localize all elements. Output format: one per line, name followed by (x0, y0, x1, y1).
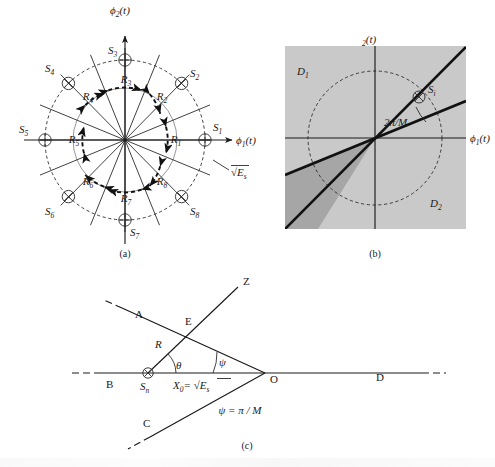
panel-c: A B C D Z E O R θ ψ Sn X0= √Es ψ = π / M… (72, 275, 446, 452)
panel-c-label-b: B (106, 378, 113, 390)
signal-point-s3 (119, 54, 131, 66)
panel-c-label-a: A (135, 308, 143, 320)
panel-a-radius-leader (213, 160, 229, 170)
panel-c-psi-arc (213, 352, 217, 373)
svg-text:S2: S2 (190, 67, 200, 82)
panel-c-distance-label: X0= √Es (172, 379, 209, 394)
panel-c-label-e: E (185, 315, 192, 327)
svg-text:R8: R8 (156, 175, 168, 190)
svg-text:S7: S7 (130, 226, 140, 241)
signal-point-s2 (175, 77, 187, 89)
panel-a-caption: (a) (119, 248, 130, 260)
svg-text:R6: R6 (82, 175, 94, 190)
svg-text:R7: R7 (120, 192, 132, 207)
panel-c-ray-oa-dash (104, 300, 122, 308)
svg-text:S4: S4 (45, 62, 55, 77)
svg-text:S8: S8 (190, 205, 200, 220)
panel-a: S1 S2 S3 S4 S5 S6 S7 S8 R1 R2 R3 R4 R5 R… (19, 4, 256, 260)
panel-c-radius-label: R (154, 338, 162, 350)
signal-point-s5 (39, 134, 51, 146)
panel-c-label-c: C (143, 417, 150, 429)
svg-text:R3: R3 (120, 73, 132, 88)
panel-c-ray-oa (122, 308, 265, 373)
svg-text:S3: S3 (108, 44, 118, 59)
panel-a-radius-label: √Es (231, 166, 247, 181)
panel-c-theta-arc (168, 354, 176, 373)
svg-text:S5: S5 (19, 123, 29, 138)
panel-c-label-z: Z (243, 275, 250, 287)
panel-c-psi-label: ψ (219, 356, 226, 368)
panel-c-label-d: D (376, 371, 384, 383)
page-bottom-artifact (0, 458, 495, 467)
panel-b-x-axis-label: ϕ1(t) (470, 132, 490, 147)
panel-b-y-axis-label: 2(t) (362, 33, 376, 48)
figure-container: S1 S2 S3 S4 S5 S6 S7 S8 R1 R2 R3 R4 R5 R… (0, 0, 495, 467)
panel-b-angle-label: 2π/M (384, 116, 408, 128)
svg-text:S1: S1 (213, 121, 222, 136)
panel-c-ray-oc-dash (128, 437, 150, 449)
panel-a-y-axis-label: ϕ2(t) (110, 4, 130, 19)
svg-text:S6: S6 (45, 205, 55, 220)
panel-a-x-axis-label: ϕ1(t) (236, 134, 256, 149)
signal-point-s7 (119, 214, 131, 226)
svg-text:R1: R1 (170, 133, 181, 148)
panel-c-label-o: O (270, 373, 278, 385)
signal-point-s8 (175, 190, 187, 202)
panel-c-note: ψ = π / M (219, 404, 263, 416)
panel-b-caption: (b) (369, 248, 381, 260)
panel-c-theta-label: θ (176, 359, 182, 371)
panel-c-caption: (c) (241, 440, 252, 452)
signal-point-s6 (62, 190, 74, 202)
signal-point-s1 (199, 134, 211, 146)
signal-point-s4 (62, 77, 74, 89)
panel-b: D1 D2 2π/M Si 2(t) ϕ1(t) (b) (285, 33, 490, 260)
panel-c-label-sn: Sn (140, 380, 150, 395)
